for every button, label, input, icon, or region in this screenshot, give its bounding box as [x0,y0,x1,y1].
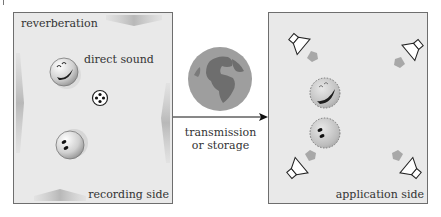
recording-side-label: recording side [88,189,169,200]
surprised-face-icon [307,115,343,151]
corner-tick [3,0,4,5]
laughing-face-icon [307,75,343,111]
application-side-panel: application side [268,12,428,204]
transmission-line-1: transmission [173,126,268,139]
direct-sound-label: direct sound [84,54,154,65]
loudspeaker-bottom-left-icon [283,147,323,183]
reverberation-arrows-icon [14,13,172,203]
transmission-label: transmission or storage [173,126,268,152]
loudspeaker-bottom-right-icon [385,147,425,183]
application-side-label: application side [336,189,424,200]
transmission-line-2: or storage [173,139,268,152]
loudspeaker-top-right-icon [387,35,427,71]
laughing-face-icon [47,55,83,91]
globe-icon [186,45,254,113]
surprised-face-icon [54,126,90,162]
loudspeaker-top-left-icon [285,29,325,65]
microphone-icon [91,89,109,107]
transmission-arrow [173,112,269,122]
recording-side-panel: reverberation direct sound [13,12,173,204]
reverberation-label: reverberation [21,18,98,29]
